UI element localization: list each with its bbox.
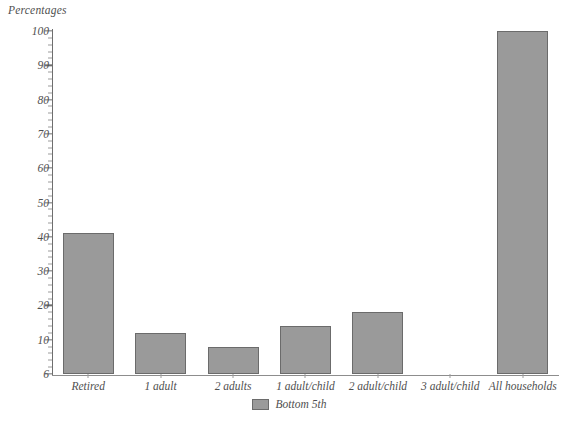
y-tick-label: 40 (38, 231, 50, 243)
x-tick (522, 374, 523, 378)
y-tick-label: 6 (43, 368, 49, 380)
x-tick (450, 374, 451, 378)
y-tick-label: 90 (38, 59, 50, 71)
y-tick-label: 70 (38, 128, 50, 140)
bar (208, 347, 259, 374)
y-tick-label: 100 (32, 25, 49, 37)
bar-group: 3 adult/child (414, 31, 486, 374)
x-tick-label: 2 adults (215, 380, 252, 392)
x-tick-label: Retired (71, 380, 104, 392)
x-tick-label: 1 adult/child (276, 380, 334, 392)
bar-group: 2 adults (197, 31, 269, 374)
bar-group: All households (487, 31, 559, 374)
bar-chart: Percentages 1009080706050403020106 Retir… (0, 0, 578, 427)
x-tick (160, 374, 161, 378)
legend-swatch-bottom-5th (252, 399, 269, 410)
x-tick-label: 3 adult/child (421, 380, 479, 392)
x-tick-label: All households (489, 380, 557, 392)
bar-group: 1 adult/child (269, 31, 341, 374)
x-tick (233, 374, 234, 378)
x-tick (377, 374, 378, 378)
x-tick-label: 2 adult/child (349, 380, 407, 392)
y-tick-label: 20 (38, 299, 50, 311)
y-tick-label: 60 (38, 162, 50, 174)
bar (280, 326, 331, 374)
legend-label-bottom-5th: Bottom 5th (276, 398, 327, 410)
y-tick-label: 30 (38, 265, 50, 277)
x-tick (305, 374, 306, 378)
chart-legend: Bottom 5th (0, 398, 578, 410)
bar-group: Retired (52, 31, 124, 374)
bar (352, 312, 403, 374)
bar-series-bottom-5th: Retired1 adult2 adults1 adult/child2 adu… (52, 31, 559, 374)
y-axis-title: Percentages (8, 4, 67, 16)
y-tick-label: 10 (38, 334, 50, 346)
bar-group: 2 adult/child (342, 31, 414, 374)
y-tick-label: 50 (38, 197, 50, 209)
plot-area: 1009080706050403020106 Retired1 adult2 a… (52, 31, 559, 374)
bar (135, 333, 186, 374)
x-tick (88, 374, 89, 378)
bar (497, 31, 548, 374)
bar (63, 233, 114, 374)
y-tick-label: 80 (38, 94, 50, 106)
x-tick-label: 1 adult (144, 380, 176, 392)
bar-group: 1 adult (124, 31, 196, 374)
